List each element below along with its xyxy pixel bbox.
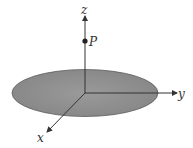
y-axis-label: y [177, 87, 185, 101]
point-p-label: P [88, 35, 98, 49]
z-axis-label: z [80, 3, 88, 17]
x-axis-label: x [37, 131, 44, 145]
diagram-svg: z P y x [0, 0, 193, 148]
disk-diagram: z P y x [0, 0, 193, 148]
point-p [82, 38, 87, 43]
